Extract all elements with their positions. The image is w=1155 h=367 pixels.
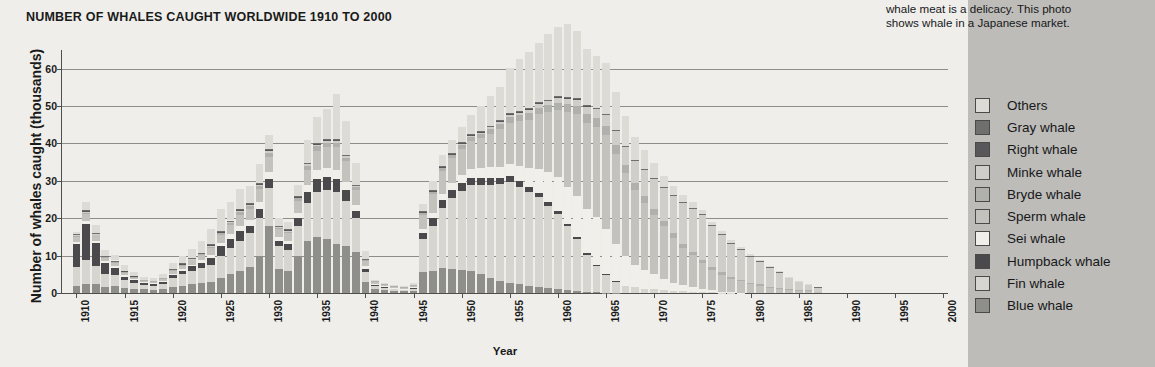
bar-segment bbox=[179, 286, 187, 293]
table-row[interactable] bbox=[130, 272, 138, 293]
x-tick-label: 1965 bbox=[610, 300, 621, 322]
table-row[interactable] bbox=[313, 117, 321, 293]
table-row[interactable] bbox=[188, 249, 196, 293]
table-row[interactable] bbox=[554, 27, 562, 293]
bar-segment bbox=[73, 232, 81, 234]
table-row[interactable] bbox=[544, 34, 552, 293]
table-row[interactable] bbox=[602, 63, 610, 293]
legend-item-others[interactable]: Others bbox=[975, 94, 1155, 116]
table-row[interactable] bbox=[150, 278, 158, 293]
legend-item-fin-whale[interactable]: Fin whale bbox=[975, 272, 1155, 294]
table-row[interactable] bbox=[689, 202, 697, 293]
table-row[interactable] bbox=[82, 202, 90, 293]
table-row[interactable] bbox=[805, 284, 813, 293]
legend-item-gray-whale[interactable]: Gray whale bbox=[975, 116, 1155, 138]
table-row[interactable] bbox=[352, 163, 360, 293]
bar-segment bbox=[304, 163, 312, 164]
table-row[interactable] bbox=[776, 271, 784, 293]
table-row[interactable] bbox=[198, 241, 206, 293]
table-row[interactable] bbox=[660, 176, 668, 293]
table-row[interactable] bbox=[718, 231, 726, 293]
table-row[interactable] bbox=[699, 210, 707, 293]
table-row[interactable] bbox=[92, 225, 100, 293]
table-row[interactable] bbox=[111, 255, 119, 293]
table-row[interactable] bbox=[612, 92, 620, 293]
table-row[interactable] bbox=[795, 281, 803, 293]
table-row[interactable] bbox=[410, 283, 418, 293]
legend-item-bryde-whale[interactable]: Bryde whale bbox=[975, 183, 1155, 205]
table-row[interactable] bbox=[362, 251, 370, 293]
table-row[interactable] bbox=[390, 285, 398, 293]
table-row[interactable] bbox=[448, 140, 456, 293]
table-row[interactable] bbox=[140, 277, 148, 293]
table-row[interactable] bbox=[477, 106, 485, 293]
table-row[interactable] bbox=[169, 263, 177, 293]
table-row[interactable] bbox=[256, 164, 264, 293]
table-row[interactable] bbox=[506, 68, 514, 293]
table-row[interactable] bbox=[304, 140, 312, 293]
table-row[interactable] bbox=[439, 155, 447, 293]
table-row[interactable] bbox=[323, 109, 331, 293]
table-row[interactable] bbox=[179, 256, 187, 293]
table-row[interactable] bbox=[73, 232, 81, 293]
table-row[interactable] bbox=[564, 24, 572, 293]
photo-caption: whale meat is a delicacy. This photo sho… bbox=[968, 0, 1155, 29]
table-row[interactable] bbox=[756, 260, 764, 293]
bar-segment bbox=[207, 246, 215, 247]
table-row[interactable] bbox=[622, 116, 630, 293]
bar-segment bbox=[217, 232, 225, 233]
table-row[interactable] bbox=[400, 286, 408, 293]
table-row[interactable] bbox=[265, 135, 273, 294]
legend-item-blue-whale[interactable]: Blue whale bbox=[975, 295, 1155, 317]
table-row[interactable] bbox=[785, 277, 793, 293]
table-row[interactable] bbox=[535, 43, 543, 293]
table-row[interactable] bbox=[766, 266, 774, 293]
bar-segment bbox=[650, 178, 658, 179]
table-row[interactable] bbox=[525, 52, 533, 293]
table-row[interactable] bbox=[207, 229, 215, 293]
table-row[interactable] bbox=[467, 115, 475, 293]
table-row[interactable] bbox=[246, 186, 254, 293]
table-row[interactable] bbox=[342, 121, 350, 293]
bar-segment bbox=[429, 194, 437, 213]
x-tick-mark bbox=[702, 293, 703, 298]
table-row[interactable] bbox=[650, 163, 658, 293]
legend-item-right-whale[interactable]: Right whale bbox=[975, 139, 1155, 161]
table-row[interactable] bbox=[284, 222, 292, 293]
bar-segment bbox=[294, 201, 302, 212]
table-row[interactable] bbox=[101, 250, 109, 293]
table-row[interactable] bbox=[516, 59, 524, 293]
legend-item-humpback-whale[interactable]: Humpback whale bbox=[975, 250, 1155, 272]
legend-item-minke-whale[interactable]: Minke whale bbox=[975, 161, 1155, 183]
legend-item-sei-whale[interactable]: Sei whale bbox=[975, 228, 1155, 250]
table-row[interactable] bbox=[573, 31, 581, 293]
table-row[interactable] bbox=[227, 202, 235, 293]
table-row[interactable] bbox=[631, 137, 639, 293]
table-row[interactable] bbox=[487, 96, 495, 293]
table-row[interactable] bbox=[670, 186, 678, 293]
table-row[interactable] bbox=[496, 87, 504, 293]
table-row[interactable] bbox=[236, 189, 244, 293]
table-row[interactable] bbox=[747, 254, 755, 293]
table-row[interactable] bbox=[159, 274, 167, 293]
table-row[interactable] bbox=[371, 280, 379, 293]
table-row[interactable] bbox=[641, 150, 649, 293]
table-row[interactable] bbox=[419, 204, 427, 293]
table-row[interactable] bbox=[217, 209, 225, 293]
table-row[interactable] bbox=[458, 127, 466, 293]
table-row[interactable] bbox=[121, 265, 129, 293]
table-row[interactable] bbox=[583, 49, 591, 293]
table-row[interactable] bbox=[294, 185, 302, 293]
legend-item-sperm-whale[interactable]: Sperm whale bbox=[975, 205, 1155, 227]
table-row[interactable] bbox=[708, 222, 716, 293]
table-row[interactable] bbox=[333, 94, 341, 293]
table-row[interactable] bbox=[679, 195, 687, 293]
table-row[interactable] bbox=[593, 56, 601, 293]
bar-segment bbox=[477, 178, 485, 185]
table-row[interactable] bbox=[429, 181, 437, 293]
table-row[interactable] bbox=[275, 218, 283, 293]
table-row[interactable] bbox=[814, 287, 822, 293]
table-row[interactable] bbox=[727, 240, 735, 293]
table-row[interactable] bbox=[737, 247, 745, 293]
table-row[interactable] bbox=[381, 283, 389, 293]
